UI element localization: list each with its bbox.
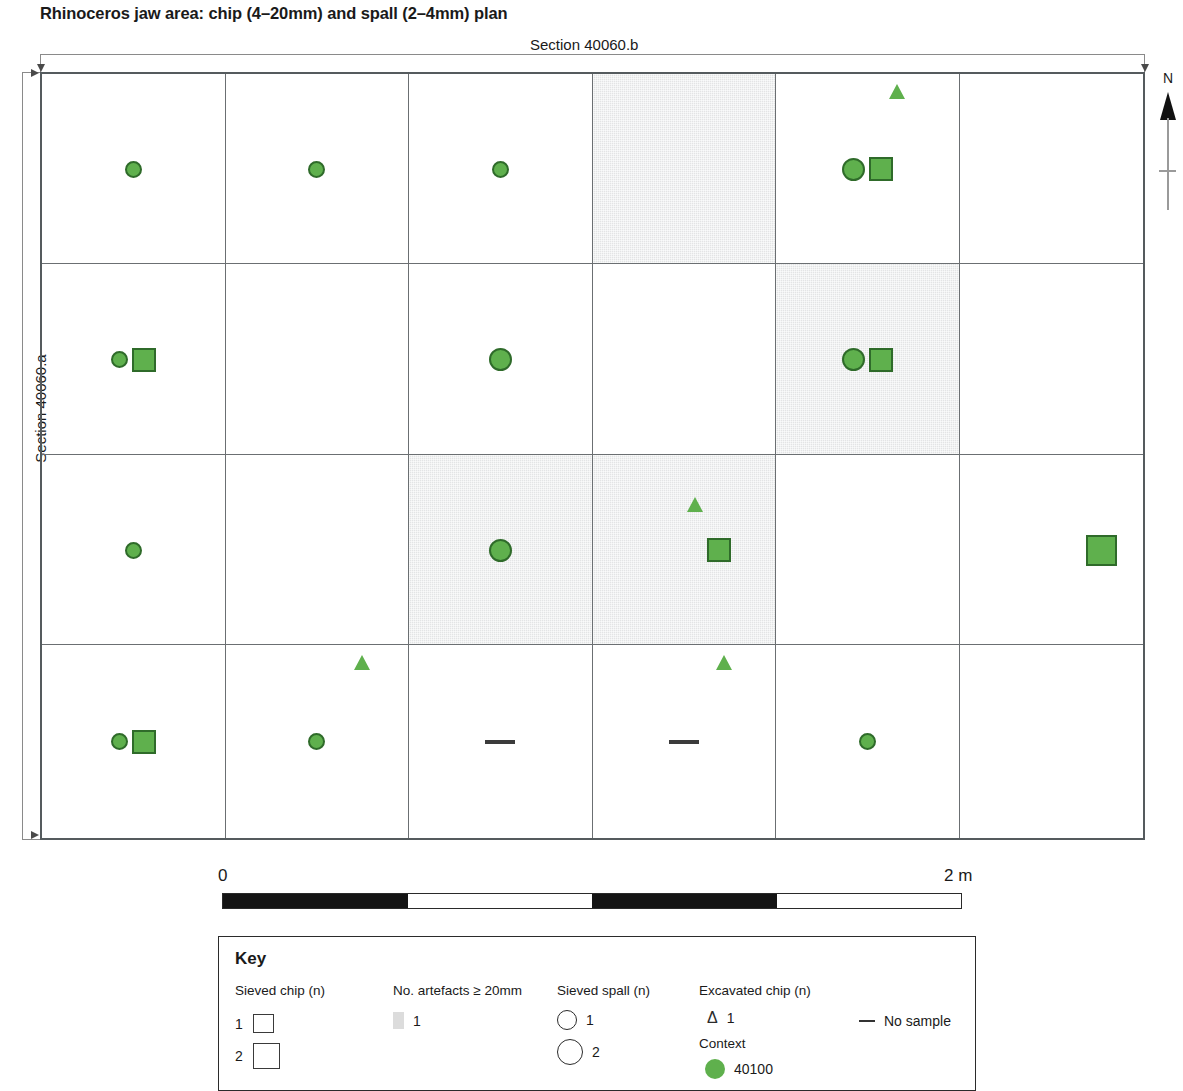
north-stem [1167, 118, 1169, 210]
cell-symbol-group [960, 534, 1144, 566]
cell-triangle-group [226, 655, 409, 670]
cell-triangle-group [776, 84, 959, 99]
key-item-label: 40100 [734, 1061, 773, 1077]
cell-symbol-group [409, 726, 592, 758]
key-item-sieved-spall-2: 2 [557, 1039, 650, 1065]
cell-symbol-group [409, 344, 592, 376]
key-item-label: 1 [235, 1016, 244, 1032]
grid-cell-r4-c6 [960, 645, 1144, 838]
symbol-excavated-chip-1 [687, 497, 703, 512]
grid-cell-r2-c5 [776, 264, 960, 455]
arrowhead-left-bottom-icon [31, 831, 39, 839]
key-column-no-sample: No sample [859, 1013, 951, 1029]
arrowhead-top-right-icon [1141, 64, 1149, 72]
grid-cell-r1-c6 [960, 74, 1144, 264]
grid-cell-r1-c3 [409, 74, 593, 264]
grid-cell-r4-c3 [409, 645, 593, 838]
grid-cell-r1-c5 [776, 74, 960, 264]
cell-triangle-group [593, 497, 776, 512]
symbol-sieved-spall-2 [842, 158, 865, 181]
grid-cell-r2-c1 [42, 264, 226, 455]
key-item-label: 1 [413, 1013, 422, 1029]
key-item-no-artefacts-1: 1 [393, 1012, 522, 1029]
key-item-no-sample: No sample [859, 1013, 951, 1029]
cell-symbol-group [409, 534, 592, 566]
key-header-excavated-chip: Excavated chip (n) [699, 983, 811, 998]
cell-symbol-group [776, 344, 959, 376]
grid-cell-r3-c4 [593, 455, 777, 645]
symbol-sieved-spall-2 [489, 348, 512, 371]
symbol-sieved-spall-1 [111, 351, 128, 368]
symbol-sieved-spall-1 [111, 733, 128, 750]
key-item-label: 2 [592, 1044, 601, 1060]
key-column-excavated-chip: Excavated chip (n) Δ 1 Context 40100 [699, 983, 811, 1079]
key-item-sieved-chip-1: 1 [235, 1014, 325, 1033]
north-arrow: N [1156, 70, 1180, 210]
key-header-sieved-chip: Sieved chip (n) [235, 983, 325, 998]
symbol-sieved-spall-1 [308, 161, 325, 178]
grid-cell-r4-c4 [593, 645, 777, 838]
symbol-sieved-spall-2 [842, 348, 865, 371]
symbol-sieved-spall-2 [489, 539, 512, 562]
symbol-no-sample [485, 740, 515, 744]
grey-swatch-icon [393, 1012, 404, 1029]
key-column-sieved-spall: Sieved spall (n) 1 2 [557, 983, 650, 1065]
symbol-sieved-spall-1 [308, 733, 325, 750]
plan-grid [40, 72, 1145, 840]
key-item-sieved-spall-1: 1 [557, 1010, 650, 1030]
symbol-excavated-chip-1 [716, 655, 732, 670]
north-label: N [1156, 70, 1180, 86]
arrowhead-left-top-icon [31, 69, 39, 77]
key-item-context-40100: 40100 [705, 1059, 811, 1079]
dash-icon [859, 1020, 875, 1023]
symbol-excavated-chip-1 [889, 84, 905, 99]
grid-cell-r1-c2 [226, 74, 410, 264]
cell-symbol-group [776, 153, 959, 185]
scale-max-label: 2 m [944, 866, 972, 886]
open-triangle-icon: Δ [707, 1010, 718, 1026]
scale-segment-3 [592, 894, 777, 908]
open-circle-small-icon [557, 1010, 577, 1030]
cell-symbol-group [42, 153, 225, 185]
grid-cell-r1-c4 [593, 74, 777, 264]
key-item-excavated-chip-1: Δ 1 [707, 1010, 811, 1026]
grid-cell-r3-c6 [960, 455, 1144, 645]
open-square-small-icon [253, 1014, 274, 1033]
cell-symbol-group [593, 534, 776, 566]
grid-cell-r4-c5 [776, 645, 960, 838]
open-circle-large-icon [557, 1039, 583, 1065]
grid-cell-r3-c3 [409, 455, 593, 645]
grid-cell-r3-c5 [776, 455, 960, 645]
grid-cell-r2-c2 [226, 264, 410, 455]
cell-symbol-group [776, 726, 959, 758]
key-header-no-artefacts: No. artefacts ≥ 20mm [393, 983, 522, 998]
key-item-sieved-chip-2: 2 [235, 1043, 325, 1069]
symbol-excavated-chip-1 [354, 655, 370, 670]
symbol-sieved-chip-2 [707, 538, 731, 562]
scale-min-label: 0 [218, 866, 227, 886]
scale-segment-4 [777, 894, 962, 908]
grid-cell-r4-c2 [226, 645, 410, 838]
grid-cell-r4-c1 [42, 645, 226, 838]
top-dimension-line [40, 54, 1145, 55]
cell-symbol-group [593, 726, 776, 758]
symbol-sieved-chip-2 [869, 348, 893, 372]
cell-symbol-group [42, 344, 225, 376]
key-item-label: 2 [235, 1048, 244, 1064]
cell-triangle-group [593, 655, 776, 670]
symbol-no-sample [669, 740, 699, 744]
north-crossbar [1159, 170, 1176, 172]
symbol-sieved-spall-1 [492, 161, 509, 178]
grid-cell-r2-c4 [593, 264, 777, 455]
left-dimension-line [22, 72, 23, 840]
key-item-label: 1 [586, 1012, 595, 1028]
cell-symbol-group [226, 726, 409, 758]
grid-cell-r2-c3 [409, 264, 593, 455]
grid-cell-r1-c1 [42, 74, 226, 264]
scale-segment-2 [408, 894, 593, 908]
key-column-sieved-chip: Sieved chip (n) 1 2 [235, 983, 325, 1069]
symbol-sieved-chip-2 [869, 157, 893, 181]
key-panel: Key Sieved chip (n) 1 2 No. artefacts ≥ … [218, 936, 976, 1091]
grid-cell-r2-c6 [960, 264, 1144, 455]
scale-segment-1 [223, 894, 408, 908]
